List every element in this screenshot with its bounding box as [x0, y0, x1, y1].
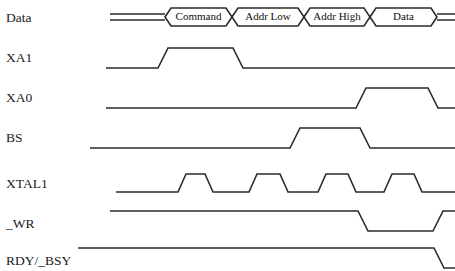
bus-segment-idle — [437, 14, 455, 20]
data-bus-layer: CommandAddr LowAddr HighData — [110, 8, 455, 26]
signal-labels-layer: DataXA1XA0BSXTAL1_WRRDY/_BSY — [5, 10, 72, 268]
waveform-xtal1 — [116, 174, 455, 192]
waveform-wr — [110, 211, 455, 231]
bus-segment-label: Command — [176, 10, 222, 22]
timing-diagram-canvas: DataXA1XA0BSXTAL1_WRRDY/_BSY CommandAddr… — [0, 0, 455, 271]
waveform-rdy-bsy — [78, 248, 455, 268]
signal-label-data: Data — [6, 10, 31, 25]
signal-label-xa1: XA1 — [6, 50, 32, 65]
bus-segment-addr-low: Addr Low — [232, 8, 304, 26]
signal-label-bs: BS — [6, 130, 23, 145]
signal-label-xa0: XA0 — [6, 90, 32, 105]
waveform-xa1 — [106, 48, 455, 68]
signal-label-rdy-bsy: RDY/_BSY — [6, 253, 72, 268]
bus-segment-addr-high: Addr High — [304, 8, 370, 26]
signal-label-xtal1: XTAL1 — [6, 176, 48, 191]
bus-segment-command: Command — [165, 8, 232, 26]
waveform-xa0 — [106, 88, 455, 108]
signal-waveforms-layer — [78, 48, 455, 268]
timing-diagram: DataXA1XA0BSXTAL1_WRRDY/_BSY CommandAddr… — [0, 0, 455, 271]
bus-segment-idle — [110, 14, 165, 20]
bus-segment-label: Data — [393, 10, 414, 22]
signal-label-wr: _WR — [5, 216, 35, 231]
bus-segment-label: Addr High — [313, 10, 361, 22]
waveform-bs — [90, 128, 455, 148]
bus-segment-label: Addr Low — [245, 10, 291, 22]
bus-segment-data: Data — [370, 8, 437, 26]
